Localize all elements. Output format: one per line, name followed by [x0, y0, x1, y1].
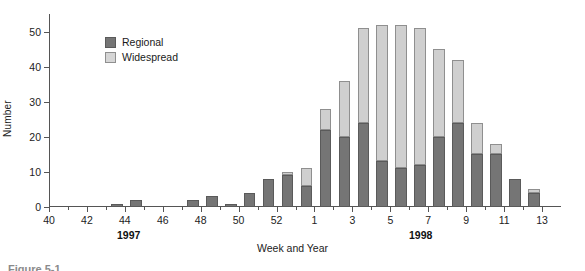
x-tick-42	[87, 207, 88, 212]
bar-week-52	[282, 172, 294, 207]
bar-segment-regional	[433, 137, 445, 207]
x-minor-tick	[371, 207, 372, 210]
x-minor-tick	[106, 207, 107, 210]
x-tick-label-11: 11	[499, 214, 510, 226]
legend-label-regional: Regional	[122, 36, 163, 48]
x-tick-label-46: 46	[157, 214, 169, 226]
x-tick-label-40: 40	[43, 214, 55, 226]
bar-segment-widespread	[433, 49, 445, 137]
x-minor-tick	[523, 207, 524, 210]
year-label-1998: 1998	[409, 229, 432, 241]
x-tick-label-9: 9	[463, 214, 469, 226]
bar-segment-widespread	[339, 81, 351, 137]
x-tick-13	[542, 207, 543, 212]
bar-week-7	[433, 49, 445, 207]
bar-segment-regional	[244, 193, 256, 207]
x-tick-label-1: 1	[312, 214, 318, 226]
year-label-1997: 1997	[117, 229, 140, 241]
bar-week-44	[130, 200, 142, 207]
bar-week-48	[206, 196, 218, 207]
x-minor-tick	[485, 207, 486, 210]
y-tick-label-50: 50	[29, 26, 41, 38]
bar-segment-regional	[301, 186, 313, 207]
bar-segment-regional	[376, 161, 388, 207]
bar-week-12	[528, 189, 540, 207]
x-tick-48	[201, 207, 202, 212]
y-tick-label-10: 10	[29, 166, 41, 178]
bar-week-9	[471, 123, 483, 207]
y-axis-title: Number	[2, 84, 16, 154]
bar-segment-regional	[187, 200, 199, 207]
x-tick-44	[125, 207, 126, 212]
x-minor-tick	[258, 207, 259, 210]
x-tick-label-5: 5	[387, 214, 393, 226]
bar-segment-regional	[509, 179, 521, 207]
bar-week-5	[395, 25, 407, 207]
chart-legend: Regional Widespread	[105, 36, 178, 63]
figure-caption-clipped: Figure 5-1	[8, 263, 61, 271]
x-tick-label-44: 44	[119, 214, 131, 226]
x-tick-3	[352, 207, 353, 212]
bar-week-8	[452, 60, 464, 207]
x-minor-tick	[220, 207, 221, 210]
bar-segment-regional	[358, 123, 370, 207]
x-tick-5	[390, 207, 391, 212]
bar-segment-regional	[320, 130, 332, 207]
bar-segment-regional	[111, 204, 123, 208]
bar-week-10	[490, 144, 502, 207]
x-tick-11	[504, 207, 505, 212]
bar-week-47	[187, 200, 199, 207]
bar-segment-widespread	[320, 109, 332, 130]
y-tick-label-40: 40	[29, 61, 41, 73]
bar-week-3	[358, 28, 370, 207]
bar-week-49	[225, 204, 237, 208]
x-tick-9	[466, 207, 467, 212]
x-tick-label-3: 3	[349, 214, 355, 226]
x-minor-tick	[182, 207, 183, 210]
bar-segment-regional	[395, 168, 407, 207]
x-tick-label-7: 7	[425, 214, 431, 226]
bar-segment-regional	[471, 154, 483, 207]
x-axis-title: Week and Year	[0, 242, 585, 254]
x-minor-tick	[409, 207, 410, 210]
bar-week-51	[263, 179, 275, 207]
bar-segment-regional	[225, 204, 237, 208]
y-tick-label-0: 0	[35, 201, 41, 213]
legend-item-widespread: Widespread	[105, 51, 178, 63]
x-minor-tick	[333, 207, 334, 210]
bar-week-2	[339, 81, 351, 207]
bar-segment-regional	[528, 193, 540, 207]
bar-segment-widespread	[528, 189, 540, 193]
x-minor-tick	[144, 207, 145, 210]
bar-week-4	[376, 25, 388, 207]
bar-week-53	[301, 168, 313, 207]
x-tick-50	[239, 207, 240, 212]
bar-segment-regional	[130, 200, 142, 207]
bar-week-6	[414, 28, 426, 207]
x-tick-7	[428, 207, 429, 212]
bar-segment-widespread	[414, 28, 426, 165]
x-tick-1	[314, 207, 315, 212]
y-tick-label-30: 30	[29, 96, 41, 108]
legend-item-regional: Regional	[105, 36, 178, 48]
bar-segment-widespread	[395, 25, 407, 169]
bar-segment-widespread	[301, 168, 313, 186]
x-minor-tick	[447, 207, 448, 210]
bar-segment-widespread	[471, 123, 483, 155]
bar-segment-widespread	[452, 60, 464, 123]
x-minor-tick	[68, 207, 69, 210]
y-tick-label-20: 20	[29, 131, 41, 143]
bar-week-50	[244, 193, 256, 207]
bar-segment-regional	[282, 175, 294, 207]
x-tick-label-13: 13	[536, 214, 548, 226]
x-tick-52	[277, 207, 278, 212]
regional-swatch-icon	[105, 37, 116, 48]
bar-segment-regional	[414, 165, 426, 207]
x-tick-label-42: 42	[81, 214, 93, 226]
bar-segment-widespread	[490, 144, 502, 155]
bar-week-43	[111, 204, 123, 208]
bar-segment-widespread	[282, 172, 294, 176]
bar-segment-regional	[452, 123, 464, 207]
widespread-swatch-icon	[105, 52, 116, 63]
